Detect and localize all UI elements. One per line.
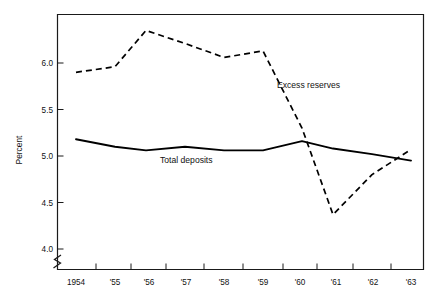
x-tick-label-62: '62 — [368, 278, 379, 287]
y-tick-label-5-5: 5.5 — [42, 106, 54, 115]
y-axis-ticks — [58, 63, 64, 249]
x-tick-label-1954: 1954 — [67, 278, 86, 287]
x-tick-label-57: '57 — [181, 278, 192, 287]
y-tick-label-4-0: 4.0 — [42, 245, 54, 254]
y-axis-tick-labels: 6.0 5.5 5.0 4.5 4.0 — [42, 59, 54, 254]
x-tick-label-63: '63 — [406, 278, 417, 287]
y-axis-title: Percent — [14, 135, 24, 165]
x-axis-ticks — [96, 264, 391, 270]
x-tick-label-55: '55 — [110, 278, 121, 287]
chart-figure: 6.0 5.5 5.0 4.5 4.0 Percent 1954 '55 '56 — [0, 0, 443, 302]
y-tick-label-4-5: 4.5 — [42, 199, 54, 208]
series-line-total-deposits — [76, 139, 411, 160]
y-axis-break-icon — [54, 255, 62, 268]
x-axis-tick-labels: 1954 '55 '56 '57 '58 '59 '60 '61 '62 '63 — [67, 278, 417, 287]
y-tick-label-5-0: 5.0 — [42, 152, 54, 161]
series-label-total-deposits: Total deposits — [160, 155, 213, 165]
x-tick-label-60: '60 — [295, 278, 306, 287]
x-tick-label-61: '61 — [331, 278, 342, 287]
series-label-excess-reserves: Excess reserves — [277, 80, 340, 90]
x-tick-label-58: '58 — [219, 278, 230, 287]
y-tick-label-6-0: 6.0 — [42, 59, 54, 68]
series-line-excess-reserves — [76, 30, 411, 214]
plot-frame — [58, 15, 424, 270]
line-chart: 6.0 5.5 5.0 4.5 4.0 Percent 1954 '55 '56 — [0, 0, 443, 302]
x-tick-label-59: '59 — [258, 278, 269, 287]
x-tick-label-56: '56 — [144, 278, 155, 287]
